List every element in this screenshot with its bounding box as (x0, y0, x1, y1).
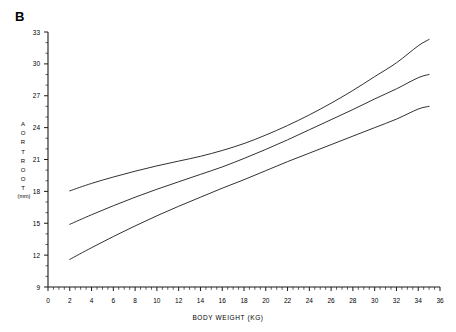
series-line-mean (70, 75, 429, 225)
x-tick-label: 36 (429, 297, 451, 304)
chart-figure: B A O R T R O O T (mm) BODY WEIGHT (KG) … (0, 0, 456, 332)
x-tick-label: 0 (37, 297, 59, 304)
y-tick-label: 15 (18, 220, 40, 227)
y-tick-label: 27 (18, 92, 40, 99)
y-tick-label: 33 (18, 29, 40, 36)
y-tick-label: 21 (18, 156, 40, 163)
x-axis-title: BODY WEIGHT (KG) (0, 314, 456, 321)
y-axis-title-letter: R (16, 138, 30, 147)
y-axis (44, 32, 48, 287)
series-line-upper (70, 39, 429, 190)
y-tick-label: 18 (18, 188, 40, 195)
x-tick-label: 14 (189, 297, 211, 304)
y-tick-label: 30 (18, 60, 40, 67)
x-tick-label: 34 (407, 297, 429, 304)
x-axis (48, 287, 440, 291)
y-tick-label: 24 (18, 124, 40, 131)
x-tick-label: 12 (168, 297, 190, 304)
x-tick-label: 8 (124, 297, 146, 304)
y-axis-title-letter: O (16, 166, 30, 175)
series-line-lower (70, 106, 429, 259)
y-tick-label: 12 (18, 252, 40, 259)
x-tick-label: 4 (81, 297, 103, 304)
x-tick-label: 22 (277, 297, 299, 304)
x-tick-label: 30 (364, 297, 386, 304)
y-axis-title-letter: O (16, 175, 30, 184)
x-tick-label: 18 (233, 297, 255, 304)
x-tick-label: 2 (59, 297, 81, 304)
data-series-group (70, 39, 429, 259)
x-tick-label: 28 (342, 297, 364, 304)
y-tick-label: 9 (18, 284, 40, 291)
x-tick-label: 32 (385, 297, 407, 304)
x-tick-label: 26 (320, 297, 342, 304)
x-tick-label: 6 (102, 297, 124, 304)
x-tick-label: 20 (255, 297, 277, 304)
x-tick-label: 10 (146, 297, 168, 304)
panel-label: B (15, 10, 24, 23)
plot-area (0, 0, 456, 332)
x-tick-label: 16 (211, 297, 233, 304)
x-tick-label: 24 (298, 297, 320, 304)
